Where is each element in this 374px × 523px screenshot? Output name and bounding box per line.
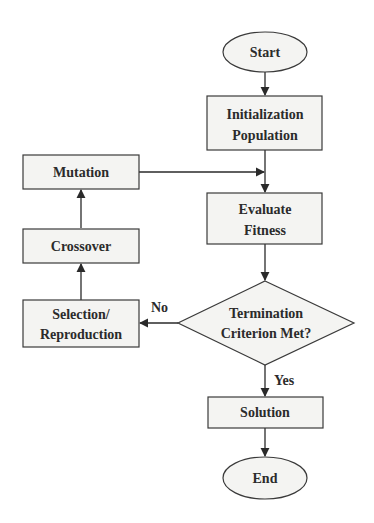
edge-label-yes: Yes: [274, 373, 295, 388]
node-start: Start: [223, 32, 307, 72]
node-evaluate-line2: Fitness: [244, 223, 287, 238]
node-init-line1: Initialization: [226, 107, 303, 122]
flowchart-canvas: No Yes Start Initialization Population M…: [0, 0, 374, 523]
node-init-line2: Population: [232, 128, 298, 143]
node-solution: Solution: [208, 397, 323, 428]
node-start-label: Start: [250, 45, 281, 60]
node-selection-line2: Reproduction: [40, 327, 122, 342]
node-crossover-label: Crossover: [51, 239, 111, 254]
node-end: End: [223, 457, 307, 499]
node-termination-line1: Termination: [229, 306, 303, 321]
node-evaluate-line1: Evaluate: [239, 202, 292, 217]
node-init: Initialization Population: [207, 96, 322, 150]
node-solution-label: Solution: [240, 405, 290, 420]
node-mutation: Mutation: [23, 155, 139, 189]
node-end-label: End: [253, 471, 278, 486]
node-selection: Selection/ Reproduction: [23, 300, 139, 347]
edge-label-no: No: [151, 300, 168, 315]
node-termination: Termination Criterion Met?: [178, 281, 354, 365]
node-mutation-label: Mutation: [53, 165, 109, 180]
node-termination-line2: Criterion Met?: [221, 326, 312, 341]
node-selection-line1: Selection/: [52, 307, 111, 322]
node-crossover: Crossover: [23, 229, 139, 263]
node-evaluate: Evaluate Fitness: [207, 193, 322, 244]
